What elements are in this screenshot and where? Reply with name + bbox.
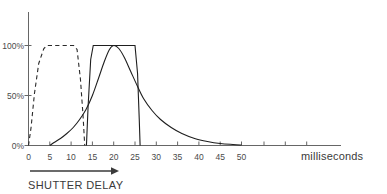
x-tick-label-5: 5 [47, 152, 52, 162]
chart-background [0, 0, 387, 194]
x-axis-unit-label: milliseconds [301, 150, 364, 162]
x-tick-label-0: 0 [26, 152, 31, 162]
chart-figure: 100% 50% 0% 05101520253035404550 SHUTTER… [0, 0, 387, 194]
y-tick-label-0: 0% [12, 141, 25, 151]
x-tick-label-40: 40 [194, 152, 204, 162]
x-tick-label-20: 20 [109, 152, 119, 162]
y-tick-label-100: 100% [2, 41, 24, 51]
y-tick-label-50: 50% [7, 91, 24, 101]
x-tick-label-15: 15 [88, 152, 98, 162]
x-tick-label-35: 35 [173, 152, 183, 162]
x-axis-title: SHUTTER DELAY [28, 179, 124, 191]
x-tick-label-25: 25 [130, 152, 140, 162]
x-tick-label-30: 30 [152, 152, 162, 162]
x-tick-label-50: 50 [237, 152, 247, 162]
x-tick-label-45: 45 [215, 152, 225, 162]
x-tick-label-10: 10 [66, 152, 76, 162]
